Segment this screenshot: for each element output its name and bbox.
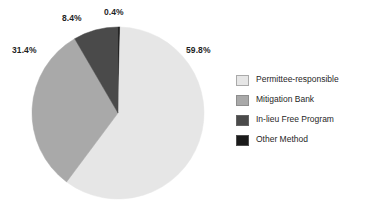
pie-slice-group <box>32 27 204 199</box>
legend-item-mitigation-bank: Mitigation Bank <box>236 90 366 110</box>
legend-swatch-icon-other-method <box>236 135 249 146</box>
pie-chart-plot-area <box>0 0 230 210</box>
legend-swatch-icon-mitigation-bank <box>236 95 249 106</box>
legend-item-other-method: Other Method <box>236 130 366 150</box>
legend-label-other-method: Other Method <box>256 135 308 144</box>
slice-data-label-in-lieu-free-program: 8.4% <box>62 14 82 23</box>
slice-data-label-permittee-responsible: 59.8% <box>186 46 211 55</box>
legend-swatch-icon-in-lieu-free-program <box>236 115 249 126</box>
legend-label-in-lieu-free-program: In-lieu Free Program <box>256 115 334 124</box>
legend-label-mitigation-bank: Mitigation Bank <box>256 95 314 104</box>
pie-chart-figure: 59.8% 31.4% 8.4% 0.4% Permittee-responsi… <box>0 0 368 210</box>
chart-legend: Permittee-responsible Mitigation Bank In… <box>236 70 366 150</box>
slice-data-label-mitigation-bank: 31.4% <box>12 46 37 55</box>
legend-label-permittee-responsible: Permittee-responsible <box>256 75 339 84</box>
legend-item-permittee-responsible: Permittee-responsible <box>236 70 366 90</box>
legend-item-in-lieu-free-program: In-lieu Free Program <box>236 110 366 130</box>
pie-chart-svg <box>0 0 230 210</box>
slice-data-label-other-method: 0.4% <box>104 8 124 17</box>
legend-swatch-icon-permittee-responsible <box>236 75 249 86</box>
